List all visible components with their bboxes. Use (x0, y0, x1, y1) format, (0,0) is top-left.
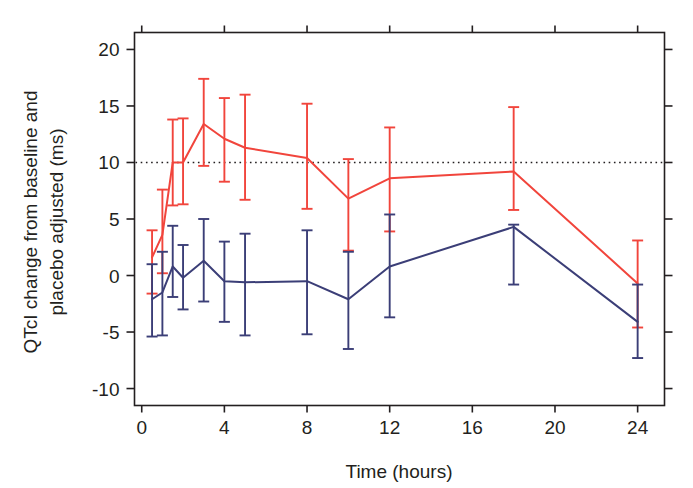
plot-frame (135, 33, 665, 406)
error-bar (240, 234, 251, 336)
y-tick-label: -10 (92, 379, 119, 400)
error-bar (508, 225, 519, 285)
error-bar (147, 264, 158, 336)
figure-container: 04812162024 20151050-5-10 Time (hours) Q… (0, 0, 693, 488)
y-tick-label: 5 (109, 209, 120, 230)
x-tick-label: 0 (136, 417, 147, 438)
error-bar (343, 159, 354, 251)
y-tick-label: 15 (98, 96, 119, 117)
error-bar (198, 79, 209, 166)
x-tick-label: 24 (627, 417, 649, 438)
error-bar (167, 226, 178, 297)
y-axis-title-line2: placebo adjusted (ms) (46, 129, 67, 316)
x-tick-label: 4 (219, 417, 230, 438)
y-tick-label: 10 (98, 152, 119, 173)
error-bar (508, 107, 519, 210)
x-tick-label: 16 (462, 417, 483, 438)
qtci-line-chart: 04812162024 20151050-5-10 Time (hours) Q… (0, 0, 693, 488)
data-series-layer (147, 79, 644, 358)
plot-area-border (135, 33, 665, 406)
series-1 (147, 79, 644, 328)
y-axis-title-line1: QTcI change from baseline and (20, 91, 41, 354)
x-axis-title: Time (hours) (346, 461, 453, 482)
y-axis-ticks: 20151050-5-10 (92, 39, 672, 399)
x-tick-label: 12 (379, 417, 400, 438)
error-bar (343, 252, 354, 349)
y-tick-label: -5 (103, 322, 120, 343)
x-tick-label: 20 (544, 417, 565, 438)
x-tick-label: 8 (302, 417, 313, 438)
series-2 (147, 214, 644, 358)
y-tick-label: 20 (98, 39, 119, 60)
y-tick-label: 0 (109, 266, 120, 287)
error-bar (302, 104, 313, 209)
